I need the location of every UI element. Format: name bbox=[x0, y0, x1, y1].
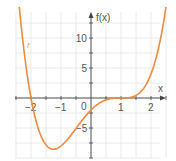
axes bbox=[15, 12, 166, 158]
y-axis-label: f(x) bbox=[96, 12, 110, 23]
x-tick-label: −1 bbox=[55, 102, 67, 113]
y-axis-arrow-icon bbox=[89, 12, 94, 18]
x-tick-label: 2 bbox=[148, 102, 154, 113]
x-axis-arrow-icon bbox=[160, 96, 166, 101]
function-name-label: f bbox=[27, 41, 30, 50]
x-tick-label: 1 bbox=[118, 102, 124, 113]
function-plot: −2−1012−5510 x f(x) f bbox=[0, 0, 176, 161]
y-tick-label: 5 bbox=[81, 63, 87, 74]
y-tick-label: 10 bbox=[76, 33, 88, 44]
x-tick-label: 0 bbox=[81, 101, 87, 112]
y-tick-label: −5 bbox=[76, 123, 88, 134]
x-axis-label: x bbox=[158, 83, 163, 94]
x-tick-label: −2 bbox=[25, 102, 37, 113]
grid bbox=[15, 12, 166, 158]
